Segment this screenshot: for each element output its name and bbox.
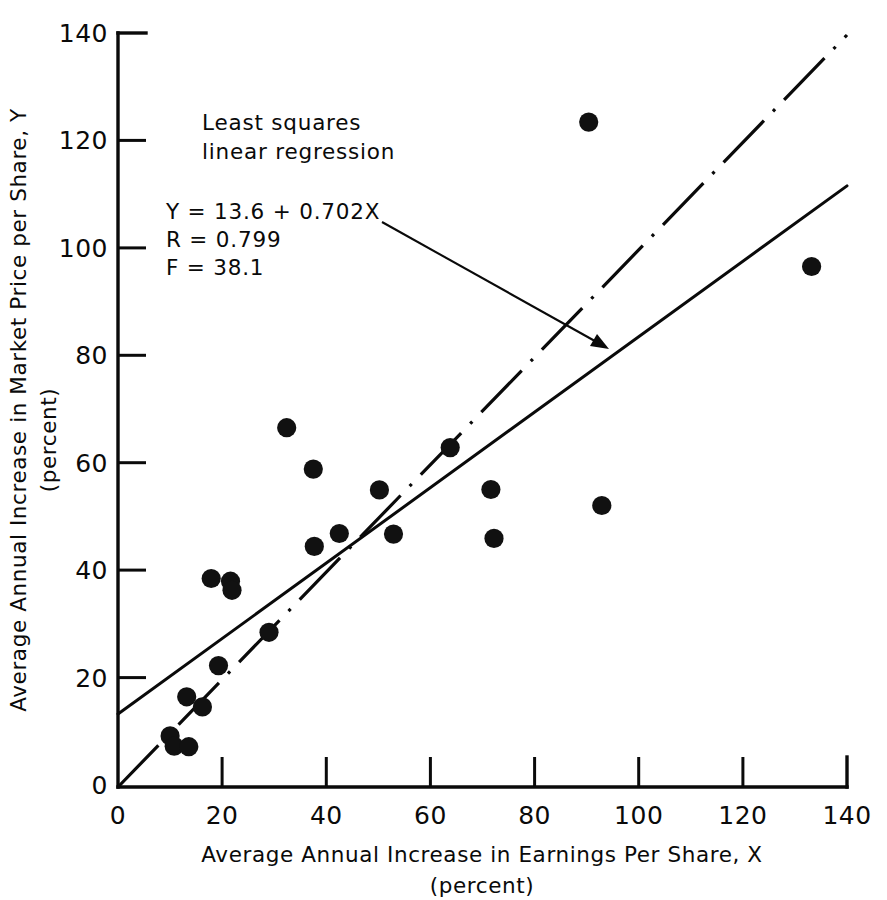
annotation-r-value: R = 0.799 <box>166 227 281 252</box>
x-tick-labels: 0 20 40 60 80 100 120 140 <box>110 801 872 830</box>
annotation-heading-line2: linear regression <box>202 139 395 164</box>
data-point <box>592 496 611 515</box>
x-axis-ticks <box>222 757 743 787</box>
y-axis-ticks <box>118 140 146 677</box>
annotation-heading-line1: Least squares <box>202 110 361 135</box>
x-tick-label-120: 120 <box>718 801 767 830</box>
x-axis-units: (percent) <box>430 873 535 898</box>
data-point <box>441 438 460 457</box>
arrow-head-icon <box>590 334 609 349</box>
data-point <box>209 656 228 675</box>
data-point <box>330 524 349 543</box>
data-point <box>222 581 241 600</box>
data-point <box>481 480 500 499</box>
x-tick-label-20: 20 <box>206 801 239 830</box>
data-point <box>304 460 323 479</box>
y-tick-label-100: 100 <box>59 234 108 263</box>
data-point <box>193 697 212 716</box>
x-tick-label-100: 100 <box>614 801 663 830</box>
x-tick-label-140: 140 <box>822 801 871 830</box>
annotation-block: Least squares linear regression Y = 13.6… <box>165 110 395 280</box>
data-point <box>179 737 198 756</box>
y-tick-label-140: 140 <box>59 19 108 48</box>
data-point <box>305 537 324 556</box>
data-point <box>384 525 403 544</box>
x-tick-label-0: 0 <box>110 801 126 830</box>
data-point <box>370 480 389 499</box>
data-point <box>202 569 221 588</box>
data-point <box>484 529 503 548</box>
data-point <box>802 257 821 276</box>
data-point <box>259 623 278 642</box>
scatter-plot-figure: 140 120 100 80 60 40 20 0 0 20 40 60 80 … <box>0 0 887 900</box>
y-axis-title: Average Annual Increase in Market Price … <box>6 108 31 712</box>
y-axis-units: (percent) <box>36 388 61 493</box>
plot-canvas: 140 120 100 80 60 40 20 0 0 20 40 60 80 … <box>0 0 887 900</box>
data-point <box>277 418 296 437</box>
x-tick-label-80: 80 <box>518 801 551 830</box>
y-tick-label-0: 0 <box>92 771 108 800</box>
x-tick-label-60: 60 <box>414 801 447 830</box>
y-tick-label-120: 120 <box>59 126 108 155</box>
data-point <box>579 113 598 132</box>
y-tick-label-40: 40 <box>75 556 108 585</box>
y-tick-label-80: 80 <box>75 341 108 370</box>
annotation-f-value: F = 38.1 <box>166 255 264 280</box>
y-tick-label-20: 20 <box>75 664 108 693</box>
annotation-equation: Y = 13.6 + 0.702X <box>165 199 380 224</box>
annotation-pointer-arrow <box>382 222 609 349</box>
x-axis-title: Average Annual Increase in Earnings Per … <box>201 842 762 867</box>
y-tick-label-60: 60 <box>75 449 108 478</box>
x-tick-label-40: 40 <box>310 801 343 830</box>
pointer-shaft <box>382 222 602 345</box>
y-tick-labels: 140 120 100 80 60 40 20 0 <box>59 19 108 800</box>
